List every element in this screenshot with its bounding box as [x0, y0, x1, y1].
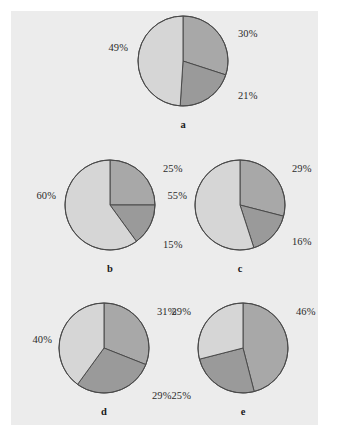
figure-panel — [11, 11, 318, 425]
